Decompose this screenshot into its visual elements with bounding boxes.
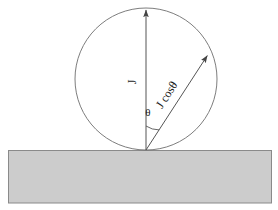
surface-slab	[9, 151, 272, 204]
theta-symbol-label: θ	[145, 106, 150, 118]
diagram-canvas: J J cosθ θ	[0, 0, 278, 210]
figure-container: J J cosθ θ	[0, 0, 278, 210]
theta-angle-arc	[146, 126, 159, 130]
vector-jcos-label: J cosθ	[153, 78, 181, 111]
vector-j-label: J	[125, 79, 139, 84]
